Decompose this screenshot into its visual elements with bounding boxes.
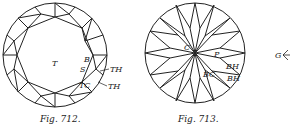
label-top-corner: TC (79, 81, 90, 90)
label-girdle: G (275, 51, 282, 60)
label-star: S (80, 65, 86, 74)
label-culet: C (184, 43, 190, 52)
label-top-half-2: TH (108, 82, 121, 91)
label-table: T (52, 59, 58, 68)
label-bezel: B (83, 55, 90, 64)
label-bottom-corner: BC (202, 70, 215, 79)
label-bottom-half-2: BH (226, 74, 241, 83)
label-pavilion: P (213, 50, 220, 59)
figure-712-crown-view (3, 3, 107, 107)
label-top-half-1: TH (110, 65, 123, 74)
caption-fig-713: Fig. 713. (177, 114, 219, 124)
arrow-left-icon (283, 50, 290, 60)
figure-713-pavilion-view (145, 3, 245, 103)
caption-fig-712: Fig. 712. (39, 114, 81, 124)
label-bottom-half-1: BH (225, 62, 240, 71)
gem-diagrams: T B S TC TH TH Fig. 712. C P BC BH BH Fi… (0, 0, 290, 126)
